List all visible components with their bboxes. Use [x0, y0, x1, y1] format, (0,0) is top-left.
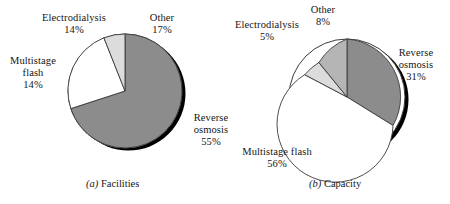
- chart-panel-capacity: Other 8% Electrodialysis 5% Reverse osmo…: [225, 0, 450, 204]
- label-electrodialysis-capacity: Electrodialysis 5%: [219, 19, 315, 43]
- caption-marker-a: (a): [86, 178, 98, 189]
- label-multistage-name-1: Multistage: [10, 55, 56, 66]
- label-reverse-name-1: Reverse: [399, 47, 434, 58]
- pie-svg-facilities: [62, 28, 190, 156]
- label-multistage-flash-facilities: Multistage flash 14%: [2, 55, 64, 92]
- label-multistage-pct: 56%: [223, 158, 331, 170]
- label-other-facilities: Other 17%: [136, 12, 188, 36]
- caption-facilities: (a) Facilities: [86, 178, 139, 190]
- caption-text-a: Facilities: [101, 178, 140, 189]
- label-electrodialysis-pct: 5%: [219, 31, 315, 43]
- label-other-name: Other: [311, 4, 335, 15]
- label-multistage-flash-capacity: Multistage flash 56%: [223, 146, 331, 170]
- label-other-name: Other: [150, 12, 174, 23]
- label-reverse-name-2: osmosis: [194, 124, 229, 135]
- label-reverse-pct: 31%: [389, 71, 443, 83]
- pie-chart-facilities: [62, 28, 190, 156]
- label-multistage-name-2: flash: [23, 67, 44, 78]
- caption-text-b: Capacity: [324, 178, 361, 189]
- label-multistage-pct: 14%: [2, 79, 64, 91]
- label-reverse-name-1: Reverse: [194, 112, 229, 123]
- caption-capacity: (b) Capacity: [309, 178, 361, 190]
- label-electrodialysis-pct: 14%: [26, 24, 122, 36]
- label-electrodialysis-facilities: Electrodialysis 14%: [26, 12, 122, 36]
- label-electrodialysis-name: Electrodialysis: [235, 19, 299, 30]
- label-reverse-name-2: osmosis: [399, 59, 434, 70]
- label-electrodialysis-name: Electrodialysis: [42, 12, 106, 23]
- caption-marker-b: (b): [309, 178, 321, 189]
- label-reverse-osmosis-capacity: Reverse osmosis 31%: [389, 47, 443, 84]
- label-multistage-name: Multistage flash: [242, 146, 312, 157]
- label-other-pct: 17%: [136, 24, 188, 36]
- chart-panel-facilities: Electrodialysis 14% Other 17% Multistage…: [0, 0, 225, 204]
- figure-root: Electrodialysis 14% Other 17% Multistage…: [0, 0, 450, 204]
